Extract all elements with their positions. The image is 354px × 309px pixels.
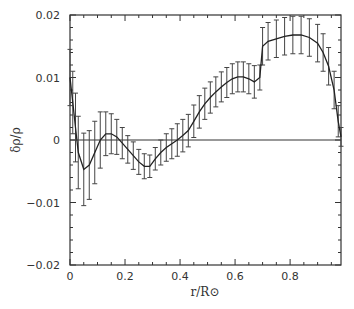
y-tick-label: 0 — [53, 134, 60, 147]
x-tick-label: 0.4 — [171, 270, 189, 283]
x-tick-label: 0.6 — [226, 270, 244, 283]
x-tick-label: 0.2 — [116, 270, 134, 283]
y-axis-label: δρ/ρ — [9, 127, 23, 152]
plot-area: 00.20.40.60.8−0.02−0.0100.010.02 — [26, 9, 343, 283]
y-tick-label: 0.01 — [36, 72, 61, 85]
y-tick-label: 0.02 — [36, 9, 61, 22]
x-axis-label: r/R⊙ — [191, 285, 220, 299]
x-tick-label: 0.8 — [281, 270, 299, 283]
chart: 00.20.40.60.8−0.02−0.0100.010.02 r/R⊙ δρ… — [0, 0, 354, 309]
x-tick-label: 0 — [67, 270, 74, 283]
y-tick-label: −0.01 — [26, 197, 60, 210]
series-line — [70, 35, 341, 169]
y-tick-label: −0.02 — [26, 259, 60, 272]
